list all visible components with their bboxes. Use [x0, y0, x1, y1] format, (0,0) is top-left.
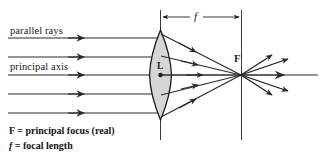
- caption-focal-length-text: = focal length: [12, 140, 72, 151]
- label-principal-axis: principal axis: [10, 62, 68, 73]
- lens-ray-diagram: parallel rays principal axis f F L F = p…: [0, 0, 321, 157]
- label-focus-symbol: F: [234, 54, 240, 65]
- label-focal-length-symbol: f: [194, 11, 197, 22]
- label-lens-symbol: L: [157, 62, 163, 72]
- incoming-ray-arrowheads: [68, 38, 84, 113]
- caption-focus-text: = principal focus (real): [15, 125, 115, 136]
- caption-line-focus: F = principal focus (real): [9, 126, 115, 136]
- caption-line-focal-length: f = focal length: [9, 141, 73, 151]
- label-parallel-rays: parallel rays: [10, 26, 63, 37]
